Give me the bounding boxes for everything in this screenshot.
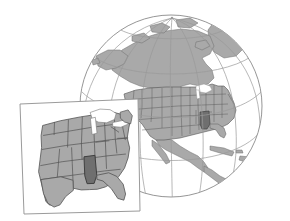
map-canvas [0,0,290,221]
inset-highlighted-state-alabama [84,155,97,183]
caribbean-islet-a [236,150,243,153]
north-pole-marker [171,17,173,19]
highlighted-state-alabama-globe [200,111,210,129]
locator-map-figure: Locator map of the United States with Al… [0,0,290,221]
inset-map [20,99,140,214]
